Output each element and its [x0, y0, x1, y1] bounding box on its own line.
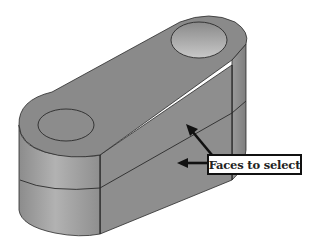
left-hole — [38, 109, 94, 141]
right-hole — [171, 22, 227, 58]
callout-label: Faces to select — [209, 158, 301, 172]
callout-label-box: Faces to select — [207, 154, 302, 175]
cad-model-drawing — [0, 0, 321, 245]
